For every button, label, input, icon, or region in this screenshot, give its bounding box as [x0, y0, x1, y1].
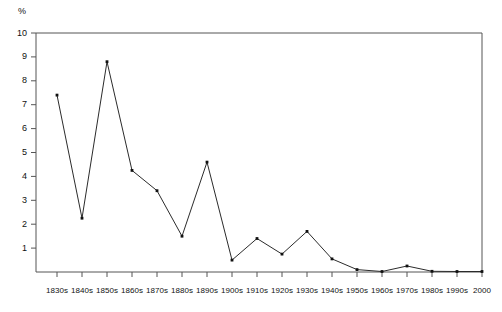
x-axis-tick-label: 1970s: [396, 286, 418, 295]
x-axis-tick-label: 1870s: [146, 286, 168, 295]
x-axis-tick-label: 2000: [473, 286, 491, 295]
x-axis-tick-label: 1920s: [271, 286, 293, 295]
x-axis-tick-labels: 1830s1840s1850s1860s1870s1880s1890s1900s…: [0, 0, 502, 312]
x-axis-tick-label: 1850s: [96, 286, 118, 295]
x-axis-tick-label: 1990s: [446, 286, 468, 295]
x-axis-tick-label: 1940s: [321, 286, 343, 295]
x-axis-tick-label: 1840s: [71, 286, 93, 295]
line-chart: % 12345678910 1830s1840s1850s1860s1870s1…: [0, 0, 502, 312]
x-axis-tick-label: 1960s: [371, 286, 393, 295]
x-axis-tick-label: 1950s: [346, 286, 368, 295]
x-axis-tick-label: 1900s: [221, 286, 243, 295]
x-axis-tick-label: 1910s: [246, 286, 268, 295]
x-axis-tick-label: 1830s: [46, 286, 68, 295]
x-axis-tick-label: 1930s: [296, 286, 318, 295]
x-axis-tick-label: 1980s: [421, 286, 443, 295]
x-axis-tick-label: 1890s: [196, 286, 218, 295]
x-axis-tick-label: 1860s: [121, 286, 143, 295]
x-axis-tick-label: 1880s: [171, 286, 193, 295]
